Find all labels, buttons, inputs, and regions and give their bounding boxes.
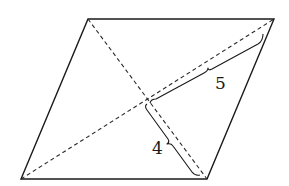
label-five: 5 <box>215 75 226 92</box>
label-four: 4 <box>152 140 163 157</box>
brace-five <box>150 34 263 103</box>
diagonal-tl-br <box>88 19 207 179</box>
parallelogram-diagram <box>0 0 289 186</box>
